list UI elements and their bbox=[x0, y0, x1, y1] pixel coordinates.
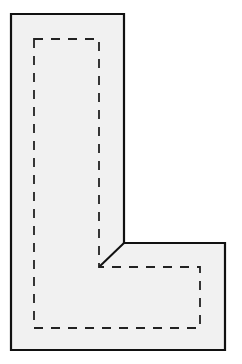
l-shape-outer-outline bbox=[11, 14, 225, 350]
l-shape-diagram bbox=[0, 0, 242, 364]
